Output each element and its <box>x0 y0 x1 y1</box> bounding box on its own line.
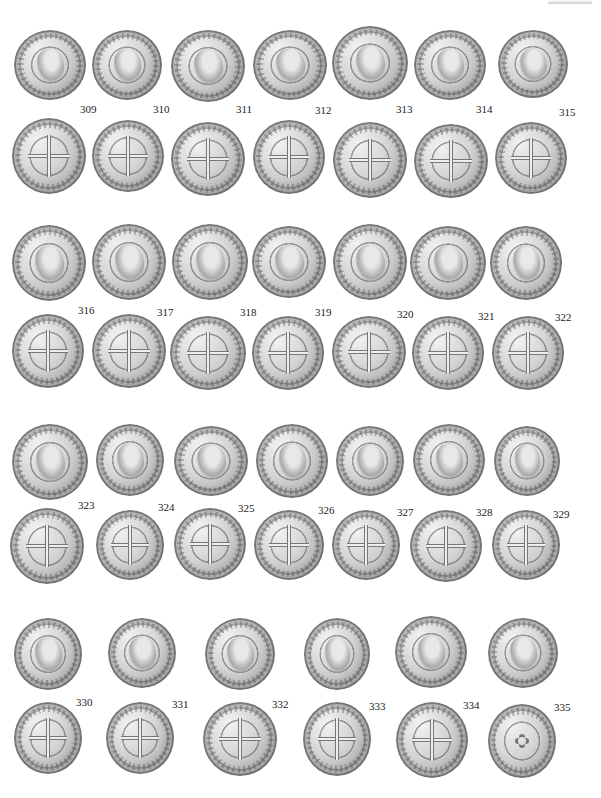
coin-obverse <box>333 224 407 300</box>
coin-obverse <box>172 224 248 300</box>
bust-icon <box>519 48 547 82</box>
coin-number-label: 317 <box>157 307 174 318</box>
coin-number-label: 319 <box>315 307 332 318</box>
coin-number-label: 325 <box>238 503 255 514</box>
coin-number-label: 320 <box>397 309 414 320</box>
page-header-cropped <box>548 0 592 4</box>
coin-obverse <box>253 30 327 100</box>
bust-icon <box>116 443 143 479</box>
coin-reverse <box>412 316 484 390</box>
bust-icon <box>34 637 61 673</box>
bust-icon <box>324 637 350 673</box>
coin-obverse <box>410 226 486 300</box>
cross-icon <box>286 332 290 373</box>
coin-obverse <box>494 426 560 496</box>
coin-obverse <box>336 426 404 496</box>
coin-number-label: 322 <box>555 312 572 323</box>
coin-number-label: 334 <box>463 700 480 711</box>
coin-number-label: 309 <box>80 104 97 115</box>
cross-icon <box>335 718 339 759</box>
coin-obverse <box>14 618 82 690</box>
cross-icon <box>430 719 434 762</box>
cross-icon <box>126 136 130 176</box>
coin-number-label: 323 <box>78 500 95 511</box>
cross-icon <box>138 718 142 758</box>
coin-number-label: 310 <box>153 104 170 115</box>
cross-icon <box>206 332 210 373</box>
coin-reverse <box>332 316 406 388</box>
coin-reverse <box>203 702 277 776</box>
coin-reverse <box>410 510 482 582</box>
coin-number-label: 327 <box>397 507 414 518</box>
cross-icon <box>446 332 450 373</box>
bust-icon <box>433 245 463 282</box>
cross-icon <box>526 332 530 373</box>
cross-icon <box>238 718 242 759</box>
coin-obverse <box>108 618 176 688</box>
coin-obverse <box>171 30 245 102</box>
bust-icon <box>509 636 537 671</box>
cross-icon <box>524 525 528 564</box>
bust-icon <box>436 48 465 83</box>
coin-number-label: 329 <box>553 509 570 520</box>
coin-reverse <box>170 316 246 390</box>
coin-number-label: 313 <box>396 104 413 115</box>
coin-number-label: 332 <box>272 699 289 710</box>
cross-icon <box>368 139 372 182</box>
coin-reverse <box>10 508 84 584</box>
coin-reverse <box>92 314 166 388</box>
coin-number-label: 315 <box>559 107 576 118</box>
coin-obverse <box>12 424 88 500</box>
coin-number-label: 324 <box>158 502 175 513</box>
coin-number-label: 318 <box>240 307 257 318</box>
coin-reverse <box>252 316 324 390</box>
coin-reverse <box>92 120 164 192</box>
coin-obverse <box>12 225 86 301</box>
coin-obverse <box>413 424 485 496</box>
coin-obverse <box>490 226 562 300</box>
coin-obverse <box>252 226 326 298</box>
coin-number-label: 316 <box>78 305 95 316</box>
coin-reverse <box>333 122 407 198</box>
coin-reverse <box>492 316 564 390</box>
bust-icon <box>193 49 223 85</box>
cross-icon <box>367 332 371 372</box>
bust-icon <box>514 444 540 479</box>
coin-reverse <box>492 510 560 580</box>
bust-icon <box>278 443 307 480</box>
coin-obverse <box>14 30 86 100</box>
cross-icon <box>364 525 368 564</box>
bust-icon <box>355 244 385 282</box>
bust-icon <box>35 444 65 482</box>
cross-icon <box>208 524 212 564</box>
coin-number-label: 330 <box>76 697 93 708</box>
coin-number-label: 321 <box>478 311 495 322</box>
cross-icon <box>206 138 210 179</box>
bust-icon <box>355 45 385 82</box>
coin-reverse <box>495 122 567 194</box>
coin-obverse <box>174 426 248 496</box>
bust-icon <box>195 244 225 282</box>
coin-obverse <box>498 30 568 98</box>
coin-obverse <box>414 30 486 100</box>
coin-obverse <box>96 424 164 496</box>
cross-icon <box>47 135 51 178</box>
coin-obverse <box>92 30 162 100</box>
bust-icon <box>435 443 464 479</box>
cross-icon <box>128 525 132 564</box>
bust-icon <box>512 245 541 282</box>
coin-obverse <box>205 618 275 690</box>
coin-obverse <box>304 618 370 690</box>
coin-plate-page: 3093103113123133143153163173183193203213… <box>0 0 601 798</box>
cross-icon <box>287 525 291 564</box>
coin-obverse <box>395 616 467 688</box>
cross-icon <box>46 330 50 371</box>
cross-icon <box>45 525 49 568</box>
bust-icon <box>113 48 141 83</box>
coin-number-label: 312 <box>315 105 332 116</box>
cross-icon <box>127 330 131 371</box>
coin-obverse <box>92 224 166 300</box>
coin-reverse <box>488 704 556 778</box>
cross-icon <box>529 138 533 178</box>
coin-number-label: 333 <box>369 701 386 712</box>
